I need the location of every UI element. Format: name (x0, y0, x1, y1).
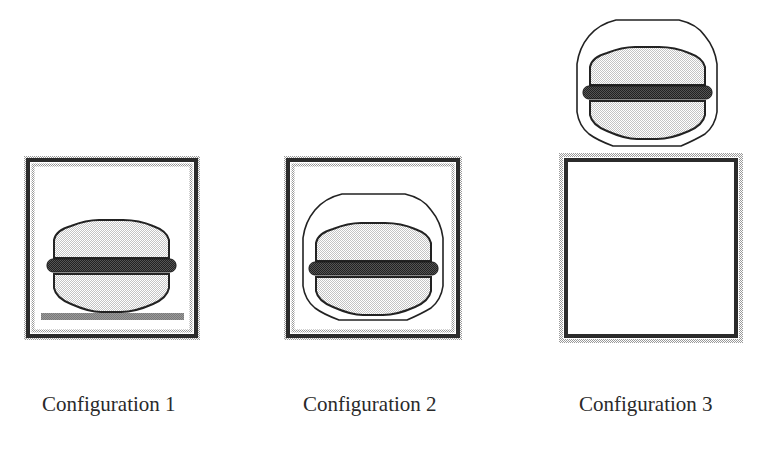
plate (41, 313, 184, 320)
caption-configuration-2: Configuration 2 (303, 392, 437, 417)
caption-configuration-3: Configuration 3 (579, 392, 713, 417)
burger-icon (309, 223, 438, 315)
burger-icon (583, 47, 712, 139)
burger-icon (47, 220, 176, 312)
caption-configuration-1: Configuration 1 (42, 392, 176, 417)
diagram-canvas (0, 0, 761, 453)
configuration-3 (561, 20, 741, 341)
configuration-2 (286, 158, 460, 338)
configuration-1 (26, 158, 198, 338)
box (566, 160, 736, 336)
